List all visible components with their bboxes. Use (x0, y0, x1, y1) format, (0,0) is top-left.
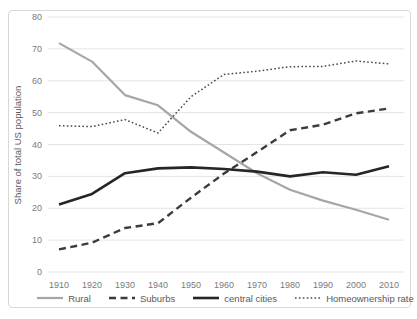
legend-item-suburbs: Suburbs (108, 293, 175, 304)
y-tick-label: 60 (32, 76, 42, 86)
chart-canvas: Share of total US population 01020304050… (0, 0, 417, 319)
legend-line-sample (192, 293, 220, 303)
legend-line-sample (294, 293, 322, 303)
legend-label: central cities (224, 293, 277, 304)
y-tick-label: 40 (32, 140, 42, 150)
legend-line-sample (36, 293, 64, 303)
legend-label: Suburbs (140, 293, 175, 304)
legend-item-homeownership-rate: Homeownership rate (294, 293, 414, 304)
y-tick-label: 50 (32, 108, 42, 118)
legend-label: Homeownership rate (326, 293, 414, 304)
y-tick-label: 20 (32, 203, 42, 213)
y-tick-label: 10 (32, 235, 42, 245)
series-lines-group (59, 43, 389, 249)
y-tick-label: 30 (32, 171, 42, 181)
gridlines-group (48, 17, 404, 272)
series-line-rural (59, 43, 389, 220)
legend-item-central-cities: central cities (192, 293, 277, 304)
line-chart: Share of total US population 01020304050… (0, 0, 417, 319)
y-tick-label: 80 (32, 12, 42, 22)
series-line-homeownership-rate (59, 61, 389, 133)
y-axis-ticks: 01020304050607080 (32, 12, 42, 277)
series-line-suburbs (59, 109, 389, 250)
series-line-central-cities (59, 166, 389, 204)
legend-label: Rural (68, 293, 91, 304)
legend: RuralSuburbscentral citiesHomeownership … (40, 289, 410, 307)
y-axis-title: Share of total US population (12, 86, 23, 205)
legend-item-rural: Rural (36, 293, 91, 304)
y-tick-label: 0 (37, 267, 42, 277)
y-tick-label: 70 (32, 44, 42, 54)
legend-line-sample (108, 293, 136, 303)
